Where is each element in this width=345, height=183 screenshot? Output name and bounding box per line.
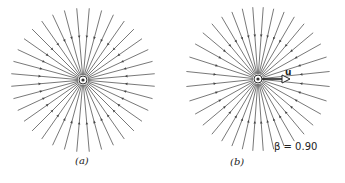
field-line bbox=[88, 82, 149, 110]
field-arrow-icon bbox=[253, 121, 256, 124]
field-line bbox=[261, 24, 304, 75]
field-line bbox=[85, 85, 113, 146]
field-arrow-icon bbox=[78, 122, 81, 125]
field-arrow-icon bbox=[260, 34, 263, 37]
field-line bbox=[88, 80, 155, 86]
field-line bbox=[258, 7, 263, 74]
field-line bbox=[77, 8, 83, 75]
field-line bbox=[232, 12, 256, 74]
field-arrow-icon bbox=[38, 75, 41, 78]
field-line bbox=[83, 85, 89, 152]
field-arrow-icon bbox=[125, 83, 128, 86]
field-line bbox=[258, 84, 263, 151]
field-line bbox=[195, 81, 253, 114]
field-line bbox=[87, 29, 134, 76]
field-arrow-icon bbox=[78, 35, 81, 38]
field-arrow-icon bbox=[247, 120, 250, 123]
field-line bbox=[18, 50, 79, 78]
field-arrow-icon bbox=[247, 35, 250, 38]
field-line bbox=[195, 44, 253, 77]
field-line bbox=[212, 83, 255, 134]
field-arrow-icon bbox=[253, 34, 256, 37]
field-line bbox=[88, 74, 155, 80]
field-line bbox=[186, 71, 253, 78]
field-arrow-icon bbox=[266, 35, 269, 38]
field-line bbox=[11, 80, 78, 86]
panel-b-label: (b) bbox=[230, 156, 244, 167]
field-arrow-icon bbox=[125, 75, 128, 78]
field-arrow-icon bbox=[86, 35, 89, 38]
field-line bbox=[260, 12, 284, 74]
field-line bbox=[77, 85, 83, 152]
beta-label: β = 0.90 bbox=[274, 141, 317, 152]
field-line bbox=[83, 8, 89, 75]
field-line bbox=[263, 71, 330, 78]
field-line bbox=[53, 15, 81, 76]
panel-a-label: (a) bbox=[75, 155, 89, 166]
field-line bbox=[18, 82, 79, 110]
field-line bbox=[262, 44, 320, 77]
field-line bbox=[253, 84, 258, 151]
field-arrow-icon bbox=[38, 83, 41, 86]
charge-b-icon bbox=[254, 75, 262, 83]
field-line bbox=[53, 85, 81, 146]
field-arrow-icon bbox=[86, 122, 89, 125]
field-lines-figure: u bbox=[0, 0, 345, 183]
field-arrow-icon bbox=[266, 120, 269, 123]
field-line bbox=[85, 15, 113, 76]
field-line bbox=[262, 81, 320, 114]
charge-a-icon bbox=[79, 76, 87, 84]
field-line bbox=[186, 80, 253, 87]
field-line bbox=[32, 84, 79, 131]
field-arrow-icon bbox=[260, 121, 263, 124]
field-line bbox=[253, 7, 258, 74]
field-line bbox=[11, 74, 78, 80]
field-line bbox=[263, 80, 330, 87]
field-line bbox=[212, 24, 255, 75]
field-line bbox=[261, 83, 304, 134]
velocity-label: u bbox=[285, 67, 291, 77]
field-line bbox=[87, 84, 134, 131]
field-line bbox=[260, 84, 284, 146]
field-line bbox=[232, 84, 256, 146]
field-line bbox=[32, 29, 79, 76]
field-line bbox=[88, 50, 149, 78]
